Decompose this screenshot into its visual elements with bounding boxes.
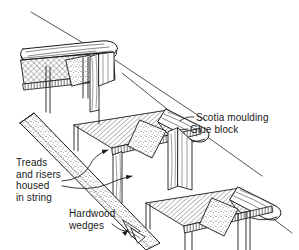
riser-top-board [90,54,99,112]
label-hardwood-wedges: Hardwood wedges [69,208,115,231]
stair-construction-diagram: Scotia moulding Glue block Treads and ri… [0,0,299,250]
diagram-linework [0,0,299,250]
label-glue-block: Glue block [190,124,238,136]
step-bottom [146,187,281,250]
label-treads-and-risers-housed-in-string: Treads and risers housed in string [16,157,61,203]
step-top [21,41,118,113]
label-scotia-moulding: Scotia moulding [196,112,269,124]
